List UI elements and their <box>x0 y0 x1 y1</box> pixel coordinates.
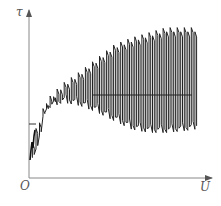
x-axis-label: U <box>200 181 210 193</box>
y-axis-label: τ <box>16 6 23 18</box>
waveform-curve <box>29 28 197 160</box>
plot-area <box>0 0 221 206</box>
oscillation-diagram: τ O U <box>0 0 221 206</box>
origin-label: O <box>20 180 30 192</box>
